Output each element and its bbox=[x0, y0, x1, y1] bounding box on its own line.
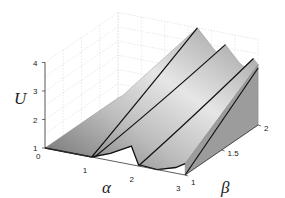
y-tick bbox=[258, 125, 261, 126]
z-axis-label: U bbox=[14, 89, 28, 108]
x-tick-label: 0 bbox=[36, 152, 41, 161]
z-tick-label: 3 bbox=[33, 87, 38, 96]
z-tick-label: 2 bbox=[33, 116, 38, 125]
x-axis-label: α bbox=[102, 178, 112, 197]
x-tick-label: 2 bbox=[129, 175, 134, 184]
y-tick-label: 1.5 bbox=[228, 149, 240, 158]
y-tick bbox=[185, 175, 188, 176]
z-tick-label: 4 bbox=[33, 59, 38, 68]
y-axis-label: β bbox=[220, 178, 230, 197]
y-tick-label: 1 bbox=[191, 178, 196, 187]
y-tick-label: 2 bbox=[264, 124, 269, 133]
surface-plot: 1234012311.52 U α β bbox=[0, 0, 285, 198]
x-tick-label: 1 bbox=[83, 166, 88, 175]
surface-top bbox=[45, 28, 258, 170]
x-tick-label: 3 bbox=[176, 184, 181, 193]
y-tick bbox=[222, 150, 225, 151]
surface bbox=[45, 28, 258, 175]
